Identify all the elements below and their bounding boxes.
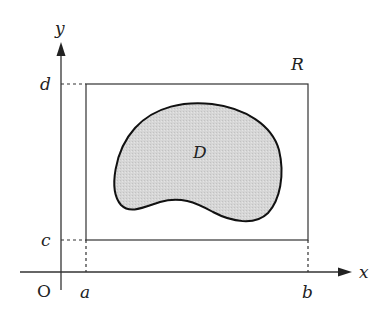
tick-label-c: c — [41, 230, 51, 250]
y-axis-arrow-icon — [57, 42, 66, 56]
x-axis-arrow-icon — [338, 268, 352, 277]
y-axis-label: y — [54, 18, 65, 38]
diagram-canvas: y x O a b c d R D — [0, 0, 384, 333]
y-axis — [57, 42, 66, 290]
tick-label-b: b — [302, 282, 313, 302]
x-axis-label: x — [359, 262, 369, 282]
origin-label: O — [37, 281, 51, 301]
tick-label-a: a — [80, 282, 90, 302]
x-axis — [20, 268, 352, 277]
tick-label-d: d — [40, 74, 51, 94]
region-label: D — [192, 142, 207, 162]
region-d — [114, 103, 281, 221]
rectangle-label: R — [290, 54, 304, 74]
